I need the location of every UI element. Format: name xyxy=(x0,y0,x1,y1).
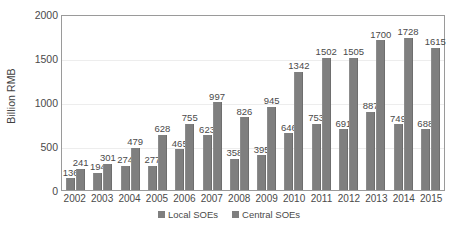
bar-group: 277628 xyxy=(144,16,171,190)
bar: 274 xyxy=(121,166,130,190)
bar-group: 358826 xyxy=(226,16,253,190)
bar: 241 xyxy=(76,169,85,190)
x-axis-tick: 2009 xyxy=(253,193,280,207)
legend-item[interactable]: Local SOEs xyxy=(158,209,218,220)
bar: 194 xyxy=(93,173,102,190)
bar-group: 6911505 xyxy=(335,16,362,190)
x-axis-tick: 2012 xyxy=(335,193,362,207)
y-axis-tick-labels: 0500100015002000 xyxy=(20,0,58,234)
x-axis-tick: 2014 xyxy=(390,193,417,207)
bar: 623 xyxy=(203,135,212,190)
x-axis-tick: 2015 xyxy=(417,193,444,207)
bar-value-label: 301 xyxy=(100,153,116,163)
bar: 301 xyxy=(103,164,112,190)
y-axis-tick: 500 xyxy=(22,141,58,153)
bar-group: 136241 xyxy=(62,16,89,190)
bar: 646 xyxy=(284,133,293,190)
y-axis-tick: 1500 xyxy=(22,53,58,65)
legend-swatch-icon xyxy=(158,211,165,218)
plot-area: 1362411943012744792776284657556239973588… xyxy=(61,15,445,191)
bar: 465 xyxy=(175,149,184,190)
bar: 1502 xyxy=(322,58,331,190)
bar-value-label: 997 xyxy=(209,92,225,102)
bar-chart: Billion RMB 0500100015002000 13624119430… xyxy=(0,0,458,234)
bar-group: 7531502 xyxy=(308,16,335,190)
bar: 691 xyxy=(339,129,348,190)
bar: 826 xyxy=(240,117,249,190)
bar-group: 6881615 xyxy=(417,16,444,190)
bar-group: 7491728 xyxy=(389,16,416,190)
legend-label: Central SOEs xyxy=(242,209,300,220)
bar-value-label: 1728 xyxy=(397,27,418,37)
bar-group: 8871700 xyxy=(362,16,389,190)
bar-value-label: 1342 xyxy=(288,61,309,71)
legend-item[interactable]: Central SOEs xyxy=(232,209,300,220)
bar-value-label: 1700 xyxy=(370,30,391,40)
x-axis-tick: 2006 xyxy=(171,193,198,207)
bar: 358 xyxy=(230,159,239,191)
bar-group: 465755 xyxy=(171,16,198,190)
x-axis-tick: 2005 xyxy=(143,193,170,207)
bar: 1700 xyxy=(376,40,385,190)
bar: 688 xyxy=(421,129,430,190)
bar-value-label: 1505 xyxy=(343,47,364,57)
x-axis-tick: 2008 xyxy=(226,193,253,207)
bar: 1342 xyxy=(294,72,303,190)
x-axis-tick: 2010 xyxy=(280,193,307,207)
bar: 1728 xyxy=(404,38,413,190)
y-axis-label-text: Billion RMB xyxy=(5,68,17,123)
bar: 749 xyxy=(394,124,403,190)
bar-group: 274479 xyxy=(117,16,144,190)
bar: 753 xyxy=(312,124,321,190)
bar-groups: 1362411943012744792776284657556239973588… xyxy=(62,16,444,190)
bar: 997 xyxy=(213,102,222,190)
y-axis-label: Billion RMB xyxy=(2,0,20,191)
bar: 1505 xyxy=(349,58,358,190)
bar: 887 xyxy=(366,112,375,190)
bar-group: 6461342 xyxy=(280,16,307,190)
bar: 479 xyxy=(131,148,140,190)
bar-value-label: 241 xyxy=(73,158,89,168)
bar: 1615 xyxy=(431,48,440,190)
bar-value-label: 1615 xyxy=(425,37,446,47)
bar: 945 xyxy=(267,107,276,190)
x-axis-tick: 2003 xyxy=(88,193,115,207)
x-axis-tick: 2004 xyxy=(116,193,143,207)
y-axis-tick: 2000 xyxy=(22,9,58,21)
bar: 395 xyxy=(257,155,266,190)
x-axis-tick: 2002 xyxy=(61,193,88,207)
legend-swatch-icon xyxy=(232,211,239,218)
bar-group: 623997 xyxy=(198,16,225,190)
bar: 136 xyxy=(66,178,75,190)
legend-label: Local SOEs xyxy=(168,209,218,220)
x-axis-tick: 2013 xyxy=(363,193,390,207)
x-axis-tick: 2007 xyxy=(198,193,225,207)
bar-value-label: 826 xyxy=(236,107,252,117)
bar: 277 xyxy=(148,166,157,190)
bar-group: 194301 xyxy=(89,16,116,190)
bar-value-label: 628 xyxy=(155,124,171,134)
bar: 628 xyxy=(158,135,167,190)
x-axis-tick-labels: 2002200320042005200620072008200920102011… xyxy=(61,193,445,207)
x-axis-tick: 2011 xyxy=(308,193,335,207)
bar-value-label: 945 xyxy=(264,96,280,106)
bar: 755 xyxy=(185,124,194,190)
y-axis-tick: 0 xyxy=(22,185,58,197)
y-axis-tick: 1000 xyxy=(22,97,58,109)
bar-value-label: 755 xyxy=(182,113,198,123)
bar-value-label: 479 xyxy=(127,137,143,147)
bar-value-label: 1502 xyxy=(316,47,337,57)
chart-legend: Local SOEsCentral SOEs xyxy=(0,209,458,220)
bar-group: 395945 xyxy=(253,16,280,190)
